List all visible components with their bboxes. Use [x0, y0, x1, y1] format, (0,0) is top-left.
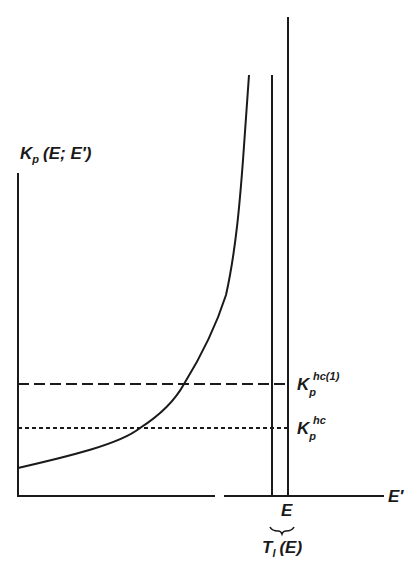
label-kp-hc1: Kphc(1): [297, 370, 340, 398]
y-axis-label: Kp(E; E′): [20, 144, 92, 165]
x-tick-label-E: E: [281, 501, 293, 520]
brace-label: Tl(E): [262, 538, 302, 559]
brace-icon: [270, 527, 294, 534]
kernel-curve: [18, 75, 249, 468]
label-kp-hc: Kphc: [297, 414, 326, 442]
diagram-canvas: Kp(E; E′) Kphc(1) Kphc E′ E Tl(E): [0, 0, 419, 574]
x-axis-label: E′: [388, 487, 404, 506]
